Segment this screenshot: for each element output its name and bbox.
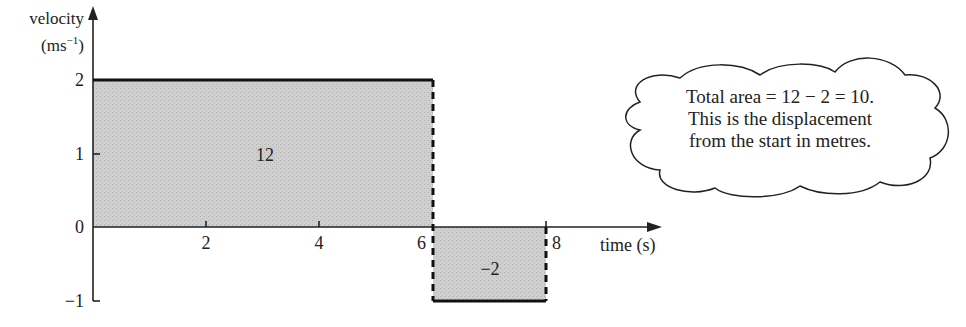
velocity-time-chart: velocity (ms−1) 2 1 0 −1 2 4 6 8 time (s… — [0, 0, 966, 327]
annotation-line: Total area = 12 − 2 = 10. — [632, 86, 928, 108]
annotation-text: Total area = 12 − 2 = 10. This is the di… — [632, 86, 928, 152]
annotation-line: This is the displacement — [632, 108, 928, 130]
x-tick-label: 8 — [552, 233, 561, 253]
x-axis-arrow-icon — [647, 222, 662, 232]
x-axis-label: time (s) — [600, 235, 656, 256]
y-axis-arrow-icon — [88, 6, 98, 20]
annotation-line: from the start in metres. — [632, 130, 928, 152]
y-tick-label: 0 — [75, 217, 84, 237]
y-axis-label: velocity — [29, 9, 84, 28]
y-tick-label: 2 — [75, 70, 84, 90]
y-axis-units: (ms−1) — [41, 34, 84, 55]
y-tick-label: −1 — [65, 291, 84, 311]
area-label-negative: −2 — [480, 259, 499, 279]
x-tick-label: 2 — [202, 233, 211, 253]
area-label-positive: 12 — [256, 145, 274, 165]
x-tick-label: 6 — [417, 233, 426, 253]
x-tick-label: 4 — [315, 233, 324, 253]
y-tick-label: 1 — [75, 144, 84, 164]
